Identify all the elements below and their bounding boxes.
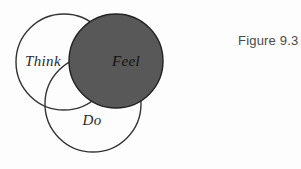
venn-diagram: Think Feel Do xyxy=(0,0,301,169)
venn-label-think: Think xyxy=(25,53,61,69)
figure-caption: Figure 9.3 xyxy=(238,33,299,48)
venn-label-do: Do xyxy=(81,112,101,128)
figure-canvas: Think Feel Do Figure 9.3 xyxy=(0,0,301,169)
venn-label-feel: Feel xyxy=(111,53,140,69)
